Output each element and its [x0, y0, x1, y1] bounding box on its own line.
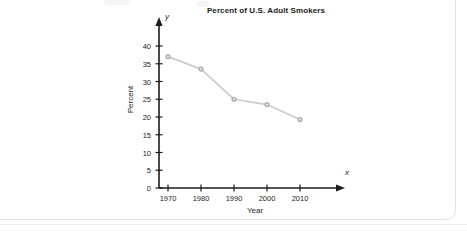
x-tick-label: 1990	[217, 194, 251, 203]
chart-figure: Percent of U.S. Adult Smokers y x Year P…	[0, 0, 467, 234]
y-tick-label: 35	[129, 59, 151, 68]
data-point-center	[200, 68, 202, 70]
y-tick-label: 20	[129, 113, 151, 122]
y-tick-label: 30	[129, 77, 151, 86]
x-tick-label: 2010	[283, 194, 317, 203]
x-tick-label: 2000	[250, 194, 284, 203]
x-axis-arrow	[336, 184, 345, 191]
data-point-center	[299, 118, 301, 120]
y-tick-label: 40	[129, 42, 151, 51]
x-tick-label: 1970	[151, 194, 185, 203]
data-line	[168, 57, 300, 120]
axes	[155, 17, 345, 192]
y-tick-label: 15	[129, 130, 151, 139]
data-point-center	[167, 56, 169, 58]
y-axis-arrow	[155, 17, 162, 26]
y-tick-label: 10	[129, 148, 151, 157]
x-tick-label: 1980	[184, 194, 218, 203]
y-tick-label: 5	[129, 166, 151, 175]
data-point-center	[266, 103, 268, 105]
y-tick-label: 25	[129, 95, 151, 104]
y-tick-label: 0	[129, 184, 151, 193]
data-point-center	[233, 98, 235, 100]
